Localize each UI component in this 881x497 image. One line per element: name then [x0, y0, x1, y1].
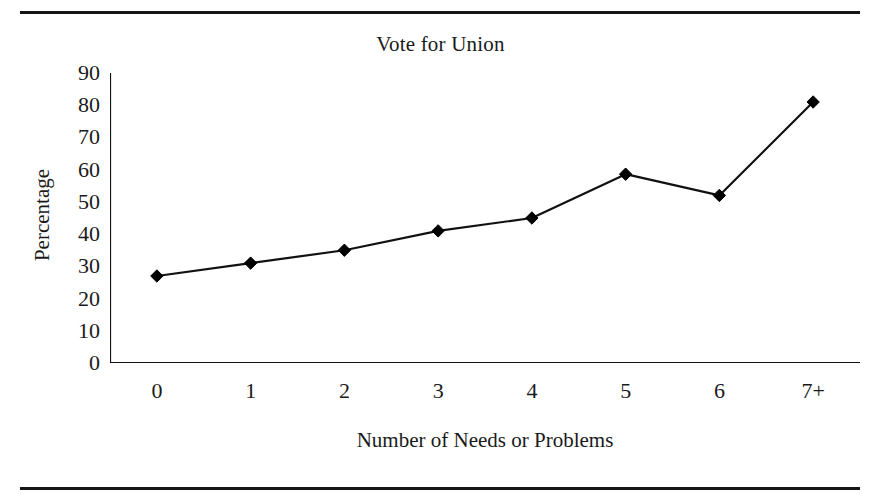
chart-figure: Vote for Union Percentage 01020304050607…	[0, 0, 881, 497]
y-axis-tick-label: 90	[40, 62, 100, 84]
plot-area	[110, 73, 860, 363]
x-axis-tick-label: 3	[403, 378, 473, 404]
line-chart-svg	[110, 73, 860, 363]
y-axis-tick-label: 30	[40, 255, 100, 277]
y-axis-tick-label: 70	[40, 126, 100, 148]
y-axis-tick-label: 0	[40, 352, 100, 374]
data-point-marker	[619, 168, 631, 180]
y-axis-tick-label: 40	[40, 223, 100, 245]
y-axis-tick-label: 60	[40, 159, 100, 181]
x-axis-tick-label: 0	[122, 378, 192, 404]
data-point-marker	[432, 225, 444, 237]
chart-title: Vote for Union	[0, 32, 881, 57]
data-point-marker	[244, 257, 256, 269]
x-axis-tick-label: 6	[684, 378, 754, 404]
data-point-marker	[338, 244, 350, 256]
data-point-marker	[151, 270, 163, 282]
x-axis-tick-label: 1	[216, 378, 286, 404]
page-rule-bottom	[20, 487, 860, 490]
y-axis-tick-label: 20	[40, 288, 100, 310]
x-axis-tick-labels: 01234567+	[110, 378, 860, 412]
x-axis-tick-label: 5	[591, 378, 661, 404]
page-rule-top	[20, 11, 860, 14]
x-axis-tick-label: 7+	[778, 378, 848, 404]
x-axis-tick-label: 4	[497, 378, 567, 404]
data-series-line	[157, 102, 813, 276]
y-axis-tick-label: 50	[40, 191, 100, 213]
data-point-marker	[526, 212, 538, 224]
y-axis-tick-label: 80	[40, 94, 100, 116]
y-axis-tick-labels: 0102030405060708090	[36, 73, 100, 363]
x-axis-title: Number of Needs or Problems	[110, 428, 860, 453]
x-axis-tick-label: 2	[309, 378, 379, 404]
y-axis-tick-label: 10	[40, 320, 100, 342]
